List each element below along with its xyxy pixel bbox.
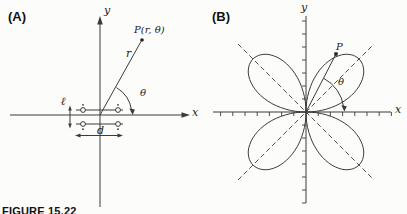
a-l-arrow-up-icon (68, 106, 72, 111)
a-l-spacing-label: ℓ (61, 96, 66, 107)
a-y-axis-label: y (104, 5, 110, 16)
a-d-arrow-right-icon (118, 134, 124, 138)
a-theta-arc (117, 88, 132, 110)
b-angle-label: θ (338, 77, 344, 87)
a-radius-label: r (126, 48, 131, 59)
a-upper-left-dot (82, 104, 84, 106)
a-x-axis-label: x (192, 107, 198, 118)
a-x-axis-arrow-icon (182, 112, 191, 118)
b-radius-ray (306, 54, 336, 112)
a-y-axis-arrow-icon (97, 16, 103, 25)
b-y-axis-label: y (301, 2, 307, 13)
panel-b-label: (B) (212, 10, 230, 23)
a-lower-right-element (116, 122, 121, 127)
a-upper-right-element (116, 108, 121, 113)
a-lower-left-element (81, 122, 86, 127)
figure-caption: FIGURE 15.22 (2, 206, 77, 214)
a-theta-arc-arrow-icon (129, 109, 135, 115)
a-d-spacing-label: d (97, 125, 104, 136)
a-lower-left-dot (82, 128, 84, 130)
figure-15-22: (A) y x P(r, θ) r θ ℓ d (B) y x P θ FIGU… (0, 0, 407, 214)
b-point-p-label: P (336, 42, 343, 52)
a-upper-left-element (81, 108, 86, 113)
a-upper-right-dot (117, 104, 119, 106)
b-theta-arc-arrow-icon (341, 105, 347, 111)
a-d-arrow-left-icon (75, 134, 81, 138)
a-point-p-dot (140, 38, 144, 42)
a-point-p-label: P(r, θ) (134, 25, 165, 35)
a-radius-ray (100, 42, 141, 116)
a-l-arrow-down-icon (68, 124, 72, 129)
panel-b-graphics (213, 16, 391, 203)
panel-a-label: (A) (8, 10, 26, 23)
panel-a-graphics (10, 16, 190, 207)
a-lower-right-dot (117, 128, 119, 130)
a-angle-label: θ (140, 88, 146, 98)
b-point-p-dot (334, 52, 337, 55)
b-x-axis-label: x (395, 104, 401, 115)
